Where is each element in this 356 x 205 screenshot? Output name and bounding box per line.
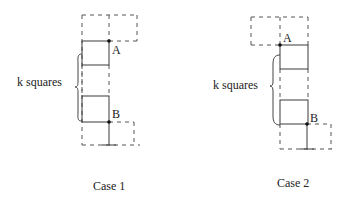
case1-square-bottom — [82, 96, 109, 122]
case2-brace — [270, 55, 280, 125]
case1-brace-label: k squares — [17, 75, 62, 89]
case2-square-top — [280, 45, 308, 69]
case2-square-bottom — [280, 100, 308, 124]
case1-point-a-label: A — [112, 43, 121, 57]
case2-point-b-label: B — [310, 111, 318, 125]
panel-case-2: A B k squares Case 2 — [213, 17, 336, 190]
case2-point-a-dot — [278, 43, 282, 47]
case2-caption: Case 2 — [277, 176, 309, 190]
case1-caption: Case 1 — [93, 179, 125, 193]
case1-square-top — [82, 41, 109, 65]
case1-brace — [75, 54, 82, 121]
diagram-canvas: A B k squares Case 1 A B k squares Ca — [0, 0, 356, 205]
case1-point-a-dot — [107, 39, 111, 43]
case1-point-b-label: B — [112, 107, 120, 121]
case2-point-b-dot — [305, 122, 309, 126]
case2-brace-label: k squares — [213, 78, 258, 92]
case1-point-b-dot — [107, 120, 111, 124]
case2-point-a-label: A — [283, 31, 292, 45]
panel-case-1: A B k squares Case 1 — [17, 15, 140, 193]
